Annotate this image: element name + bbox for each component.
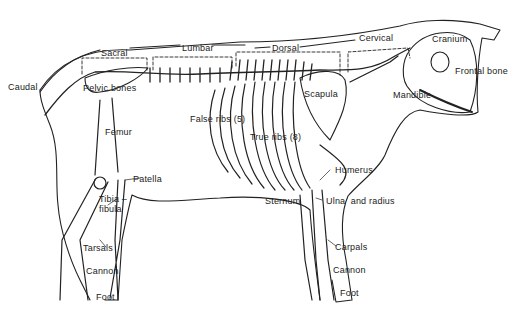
label-cervical: Cervical (359, 33, 393, 43)
label-frontal-bone: Frontal bone (455, 66, 508, 76)
label-cannon-hind: Cannon (86, 266, 119, 276)
label-ulna-radius: Ulna and radius (326, 196, 395, 206)
label-true-ribs: True ribs (8) (250, 132, 301, 142)
label-cranium: Cranium (432, 34, 467, 44)
scapula-shape (300, 71, 346, 140)
label-sacral: Sacral (101, 48, 128, 58)
label-carpals: Carpals (335, 242, 367, 252)
label-cannon-fore: Cannon (333, 265, 366, 275)
label-lumbar: Lumbar (182, 43, 214, 53)
label-tibia-fibula: Tibia – fibula (99, 194, 127, 214)
label-false-ribs: False ribs (5) (190, 114, 245, 124)
label-mandible: Mandible (393, 90, 431, 100)
label-caudal: Caudal (8, 82, 38, 92)
label-pelvic-bones: Pelvic bones (83, 83, 136, 93)
label-humerus: Humerus (335, 165, 373, 175)
label-scapula: Scapula (304, 89, 338, 99)
label-foot-fore: Foot (340, 288, 359, 298)
label-foot-hind: Foot (96, 292, 115, 302)
label-dorsal: Dorsal (272, 43, 299, 53)
label-femur: Femur (105, 127, 132, 137)
label-tarsals: Tarsals (83, 243, 113, 253)
label-sternum: Sternum (265, 196, 300, 206)
label-patella: Patella (133, 174, 162, 184)
